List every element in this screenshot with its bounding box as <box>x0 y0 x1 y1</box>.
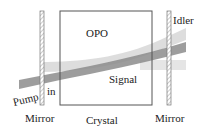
opo-label: OPO <box>86 27 108 39</box>
mirror-right <box>167 11 171 105</box>
mirror-left <box>40 11 44 105</box>
pump-label: Pump <box>12 90 40 108</box>
in-label: in <box>47 85 56 97</box>
opo-diagram: OPO Idler Signal Pump in Mirror Crystal … <box>0 0 201 133</box>
mirror-right-label: Mirror <box>155 112 185 124</box>
mirror-left-label: Mirror <box>25 112 55 124</box>
idler-label: Idler <box>173 14 194 26</box>
crystal-label: Crystal <box>86 114 118 126</box>
signal-label: Signal <box>109 73 137 85</box>
